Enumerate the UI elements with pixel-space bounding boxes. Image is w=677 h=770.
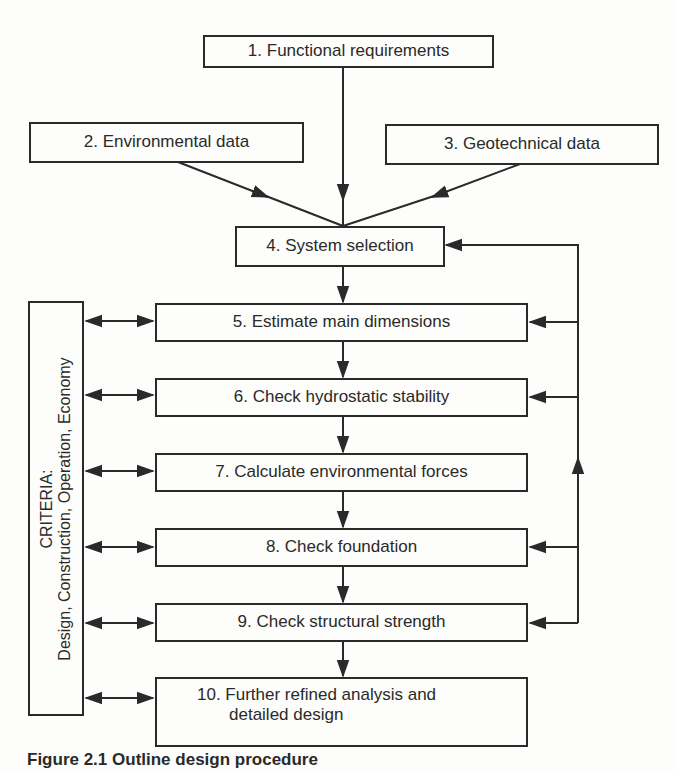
node-further-refined-analysis: 10. Further refined analysis and detaile… xyxy=(155,677,528,747)
node-label: 5. Estimate main dimensions xyxy=(233,312,450,332)
node-label-line2: detailed design xyxy=(197,705,436,725)
node-label: 3. Geotechnical data xyxy=(444,134,600,154)
node-environmental-data: 2. Environmental data xyxy=(29,122,304,163)
node-label: 4. System selection xyxy=(266,236,413,256)
figure-caption: Figure 2.1 Outline design procedure xyxy=(27,750,318,770)
criteria-title: CRITERIA: xyxy=(38,301,56,716)
node-estimate-main-dimensions: 5. Estimate main dimensions xyxy=(155,303,528,342)
node-check-structural-strength: 9. Check structural strength xyxy=(155,603,528,642)
criteria-box: CRITERIA: Design, Construction, Operatio… xyxy=(28,301,84,716)
node-system-selection: 4. System selection xyxy=(235,226,445,267)
node-check-hydrostatic-stability: 6. Check hydrostatic stability xyxy=(155,378,528,417)
node-functional-requirements: 1. Functional requirements xyxy=(203,35,494,68)
node-check-foundation: 8. Check foundation xyxy=(155,528,528,567)
node-label: 6. Check hydrostatic stability xyxy=(234,387,449,407)
node-label: 8. Check foundation xyxy=(266,537,417,557)
node-label: 7. Calculate environmental forces xyxy=(215,462,467,482)
node-label: 1. Functional requirements xyxy=(248,41,449,61)
node-label-line1: 10. Further refined analysis and xyxy=(197,685,436,704)
node-calculate-environmental-forces: 7. Calculate environmental forces xyxy=(155,453,528,492)
node-label: 9. Check structural strength xyxy=(238,612,446,632)
criteria-items: Design, Construction, Operation, Economy xyxy=(56,301,74,716)
node-label: 2. Environmental data xyxy=(84,132,249,152)
node-geotechnical-data: 3. Geotechnical data xyxy=(385,124,659,165)
